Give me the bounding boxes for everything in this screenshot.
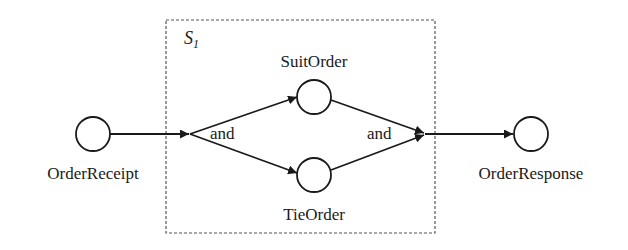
- node-order-receipt: [76, 117, 110, 151]
- node-order-response: [514, 117, 548, 151]
- node-label-suit-order: SuitOrder: [280, 52, 347, 71]
- workflow-diagram: S1 OrderReceipt SuitOrder TieOrder Order…: [0, 0, 628, 250]
- and-split-label: and: [210, 124, 235, 143]
- node-suit-order: [297, 80, 331, 114]
- edge-split-to-suit: [190, 97, 297, 134]
- scope-label: S1: [184, 28, 199, 51]
- edge-split-to-tie: [190, 134, 297, 173]
- node-tie-order: [297, 158, 331, 192]
- node-label-order-receipt: OrderReceipt: [47, 164, 139, 183]
- node-label-order-response: OrderResponse: [479, 164, 584, 183]
- and-join-label: and: [367, 124, 392, 143]
- node-label-tie-order: TieOrder: [283, 205, 345, 224]
